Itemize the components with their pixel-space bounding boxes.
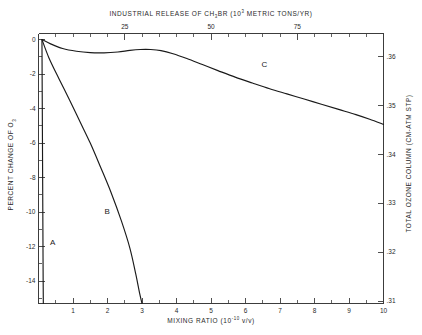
curve-B — [42, 40, 142, 304]
x2tick-label-25: 25 — [95, 23, 155, 30]
axes-frame — [39, 34, 384, 304]
curve-A — [42, 40, 43, 304]
x2tick-label-50: 50 — [181, 23, 241, 30]
ytick-label--4: -4 — [0, 105, 36, 112]
ytick-label-0: 0 — [0, 36, 36, 43]
curve-C — [42, 40, 384, 125]
y2tick-label-.35: .35 — [387, 102, 422, 109]
ytick-label--12: -12 — [0, 243, 36, 250]
y2tick-label-.34: .34 — [387, 151, 422, 158]
data-curves — [42, 40, 384, 304]
ytick-label--2: -2 — [0, 70, 36, 77]
y2tick-label-.32: .32 — [387, 248, 422, 255]
xtick-label-10: 10 — [354, 307, 414, 314]
ytick-label--6: -6 — [0, 139, 36, 146]
ytick-label--8: -8 — [0, 174, 36, 181]
ozone-depletion-chart: INDUSTRIAL RELEASE OF CH3BR (103 METRIC … — [0, 0, 422, 335]
curve-label-A: A — [50, 238, 55, 247]
curve-label-B: B — [105, 207, 110, 216]
curve-label-C: C — [261, 60, 267, 69]
ytick-label--10: -10 — [0, 208, 36, 215]
y2tick-label-.33: .33 — [387, 199, 422, 206]
ytick-label--14: -14 — [0, 277, 36, 284]
plot-area — [0, 0, 422, 335]
tick-marks — [39, 34, 384, 304]
y2tick-label-.31: .31 — [387, 297, 422, 304]
y2tick-label-.36: .36 — [387, 53, 422, 60]
x2tick-label-75: 75 — [267, 23, 327, 30]
